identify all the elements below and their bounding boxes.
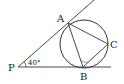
angle-arc-p [24,62,26,67]
tangent-line-pa [18,0,94,67]
label-a: A [56,13,65,24]
chord-bc [83,44,108,67]
label-p: P [8,62,15,73]
geometry-diagram: P A B C 40° [0,0,124,84]
label-b: B [80,71,87,82]
label-angle-p: 40° [28,59,40,67]
label-c: C [110,39,118,50]
circle [60,20,108,68]
